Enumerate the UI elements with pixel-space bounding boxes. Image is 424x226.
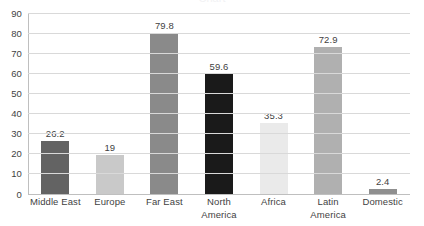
gridline [28,173,410,174]
x-axis-category-label: Africa [246,196,301,209]
x-axis-category-labels: Middle EastEuropeFar EastNorth AmericaAf… [28,196,410,226]
y-axis-tick-label: 0 [17,188,22,199]
x-axis-category-label: Domestic [355,196,410,209]
gridline [28,13,410,14]
y-axis-tick-label: 40 [11,108,22,119]
bar-slot: 26.2 [28,13,83,194]
gridline [28,133,410,134]
x-axis-category-label: Middle East [28,196,83,209]
bar-slot: 35.3 [246,13,301,194]
gridline [28,73,410,74]
y-axis-tick-label: 20 [11,148,22,159]
y-axis-tick-label: 80 [11,27,22,38]
chart-title-text: Chart [0,0,424,4]
x-axis-category-label: North America [192,196,247,221]
bar[interactable] [41,141,69,194]
x-axis-category-label: Far East [137,196,192,209]
x-axis-category-label: Latin America [301,196,356,221]
bar-value-label: 2.4 [376,176,390,187]
bar-value-label: 72.9 [319,34,338,45]
bar-slot: 72.9 [301,13,356,194]
bar-value-label: 59.6 [210,61,229,72]
bar[interactable] [314,47,342,194]
y-axis: 0102030405060708090 [0,0,26,226]
gridline [28,53,410,54]
bar-value-label: 19 [104,142,115,153]
bar-series: 26.21979.859.635.372.92.4 [28,13,410,194]
y-axis-tick-label: 50 [11,87,22,98]
bar[interactable] [96,155,124,193]
gridline [28,93,410,94]
bar-value-label: 35.3 [264,110,283,121]
bar-slot: 19 [83,13,138,194]
gridline [28,33,410,34]
y-axis-tick-label: 10 [11,168,22,179]
gridline [28,194,410,195]
bar-chart: Chart 0102030405060708090 26.21979.859.6… [0,0,424,226]
bar-value-label: 79.8 [155,20,174,31]
gridline [28,153,410,154]
bar-slot: 2.4 [355,13,410,194]
bar-slot: 79.8 [137,13,192,194]
x-axis-category-label: Europe [83,196,138,209]
y-axis-tick-label: 30 [11,128,22,139]
bar-slot: 59.6 [192,13,247,194]
chart-title-clipped: Chart [0,0,424,9]
y-axis-tick-label: 60 [11,67,22,78]
gridline [28,113,410,114]
y-axis-tick-label: 70 [11,47,22,58]
y-axis-tick-label: 90 [11,7,22,18]
plot-area: 26.21979.859.635.372.92.4 [28,13,410,194]
